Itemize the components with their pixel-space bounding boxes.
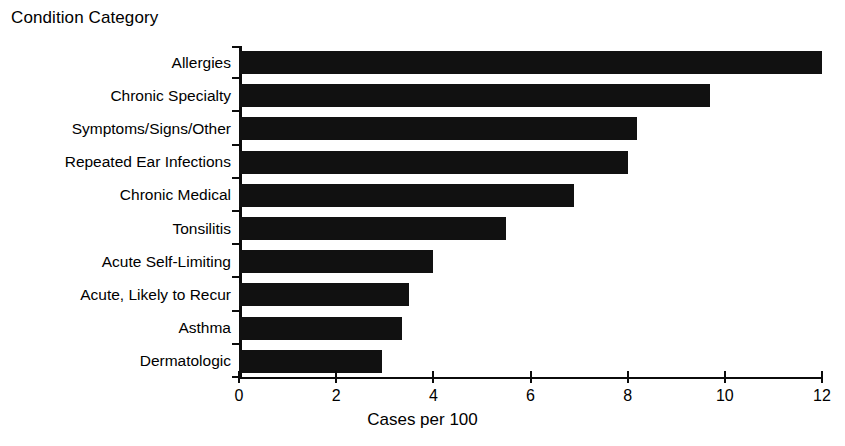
x-axis-tick-label: 6 [526, 386, 535, 405]
x-axis-tick [335, 371, 337, 383]
bar-row [239, 179, 822, 212]
bar [239, 217, 506, 240]
bar [239, 317, 402, 340]
bar-row [239, 278, 822, 311]
bar [239, 117, 637, 140]
bar-row [239, 146, 822, 179]
y-axis-tick-label: Acute, Likely to Recur [5, 286, 231, 304]
y-axis-title: Condition Category [11, 8, 158, 28]
bar-row [239, 312, 822, 345]
x-axis-tick [627, 371, 629, 383]
x-axis-tick-label: 8 [623, 386, 632, 405]
bar-row [239, 245, 822, 278]
bar [239, 51, 822, 74]
x-axis-tick [432, 371, 434, 383]
y-axis-tick-label: Symptoms/Signs/Other [5, 120, 231, 138]
bar-row [239, 46, 822, 79]
x-axis-tick-label: 12 [813, 386, 831, 405]
bar [239, 250, 433, 273]
y-axis-tick [232, 376, 242, 378]
y-axis-tick-label: Acute Self-Limiting [5, 253, 231, 271]
y-axis-tick-label: Asthma [5, 319, 231, 337]
y-axis-tick-label: Repeated Ear Infections [5, 153, 231, 171]
y-axis-tick-label: Chronic Specialty [5, 87, 231, 105]
x-axis-tick [724, 371, 726, 383]
x-axis-tick-label: 10 [716, 386, 734, 405]
bar [239, 184, 574, 207]
chart-figure: Condition Category AllergiesChronic Spec… [0, 0, 845, 446]
plot-area: 024681012 [239, 46, 822, 378]
y-axis-tick [232, 46, 242, 48]
bar-row [239, 212, 822, 245]
x-axis-tick [821, 371, 823, 383]
bar-row [239, 79, 822, 112]
y-axis-tick-label: Dermatologic [5, 352, 231, 370]
y-axis-tick-label: Chronic Medical [5, 186, 231, 204]
y-axis-tick-label: Allergies [5, 54, 231, 72]
x-axis-title: Cases per 100 [0, 410, 845, 430]
x-axis-tick-label: 2 [332, 386, 341, 405]
bar [239, 283, 409, 306]
bar [239, 151, 628, 174]
x-axis-tick-label: 0 [235, 386, 244, 405]
x-axis-tick-label: 4 [429, 386, 438, 405]
y-axis-tick-label: Tonsilitis [5, 220, 231, 238]
x-axis-tick [530, 371, 532, 383]
bar [239, 84, 710, 107]
bar [239, 350, 382, 373]
bar-row [239, 112, 822, 145]
x-axis-tick [238, 371, 240, 383]
